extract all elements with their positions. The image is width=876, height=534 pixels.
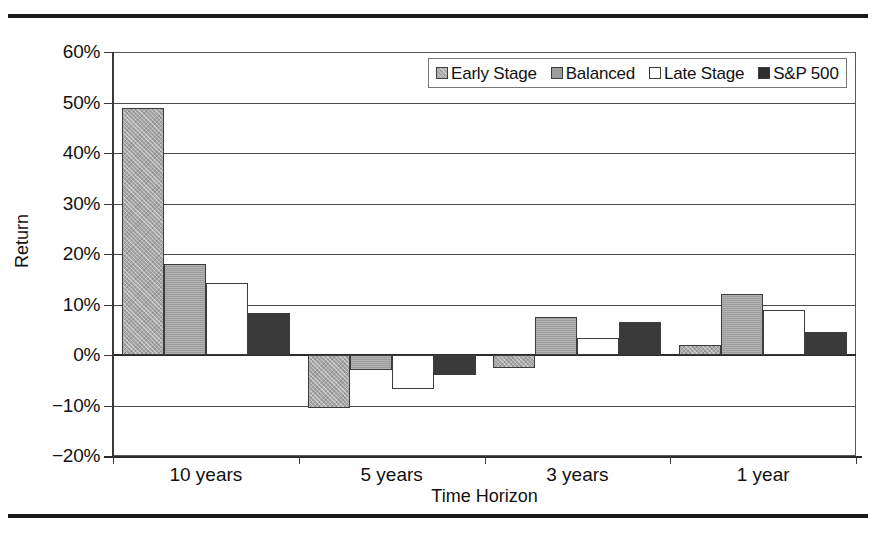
bar bbox=[493, 355, 535, 368]
legend-label: Balanced bbox=[566, 65, 635, 82]
x-tick bbox=[113, 456, 114, 464]
legend-swatch-icon bbox=[436, 67, 448, 79]
x-axis-title: Time Horizon bbox=[113, 486, 856, 506]
legend-swatch-icon bbox=[649, 67, 661, 79]
legend-swatch-icon bbox=[758, 67, 770, 79]
bar bbox=[805, 332, 847, 355]
y-tick-label: −20% bbox=[40, 446, 100, 465]
gridline-30% bbox=[113, 204, 856, 205]
legend-entry: Early Stage bbox=[436, 65, 537, 82]
chart-figure: 60%50%40%30%20%10%0%−10%−20% Return 10 y… bbox=[0, 0, 876, 534]
gridline-minus10% bbox=[113, 406, 856, 407]
x-tick bbox=[485, 456, 486, 464]
gridline-50% bbox=[113, 103, 856, 104]
gridline-40% bbox=[113, 153, 856, 154]
legend-entry: S&P 500 bbox=[758, 65, 838, 82]
x-tick-label: 3 years bbox=[487, 464, 667, 486]
bar bbox=[164, 264, 206, 355]
x-tick bbox=[670, 456, 671, 464]
legend-label: Late Stage bbox=[664, 65, 744, 82]
y-axis-title: Return bbox=[13, 181, 31, 301]
legend-label: S&P 500 bbox=[773, 65, 838, 82]
top-rule bbox=[8, 14, 868, 18]
bar bbox=[577, 338, 619, 355]
y-tick-label: 0% bbox=[40, 345, 100, 364]
bar bbox=[679, 345, 721, 355]
chart-legend: Early StageBalancedLate StageS&P 500 bbox=[428, 58, 847, 88]
legend-entry: Late Stage bbox=[649, 65, 744, 82]
y-tick-label: 60% bbox=[40, 42, 100, 61]
bar bbox=[206, 283, 248, 355]
bar bbox=[619, 322, 661, 355]
y-tick-label: 40% bbox=[40, 143, 100, 162]
y-tick-label: 20% bbox=[40, 244, 100, 263]
x-tick-label: 10 years bbox=[116, 464, 296, 486]
y-tick bbox=[104, 254, 113, 255]
y-tick bbox=[104, 406, 113, 407]
y-tick-label: −10% bbox=[40, 396, 100, 415]
y-tick bbox=[104, 103, 113, 104]
bottom-rule bbox=[8, 514, 868, 518]
bar bbox=[763, 310, 805, 355]
x-tick bbox=[299, 456, 300, 464]
y-tick-label: 50% bbox=[40, 93, 100, 112]
x-tick-label: 5 years bbox=[302, 464, 482, 486]
gridline-20% bbox=[113, 254, 856, 255]
y-tick bbox=[104, 355, 113, 356]
y-tick-label: 30% bbox=[40, 194, 100, 213]
y-tick bbox=[104, 305, 113, 306]
bar bbox=[308, 355, 350, 408]
y-tick bbox=[104, 52, 113, 53]
x-tick bbox=[856, 456, 857, 464]
y-tick-label: 10% bbox=[40, 295, 100, 314]
bar bbox=[350, 355, 392, 370]
legend-swatch-icon bbox=[551, 67, 563, 79]
y-tick bbox=[104, 153, 113, 154]
bar bbox=[392, 355, 434, 389]
x-tick-label: 1 year bbox=[673, 464, 853, 486]
bar bbox=[122, 108, 164, 355]
y-tick bbox=[104, 204, 113, 205]
bar bbox=[434, 355, 476, 375]
bar bbox=[248, 313, 290, 355]
bar bbox=[721, 294, 763, 355]
y-axis-tick-labels: 60%50%40%30%20%10%0%−10%−20% bbox=[22, 0, 100, 534]
bar bbox=[535, 317, 577, 355]
legend-label: Early Stage bbox=[451, 65, 537, 82]
x-axis-line bbox=[104, 456, 862, 458]
legend-entry: Balanced bbox=[551, 65, 635, 82]
